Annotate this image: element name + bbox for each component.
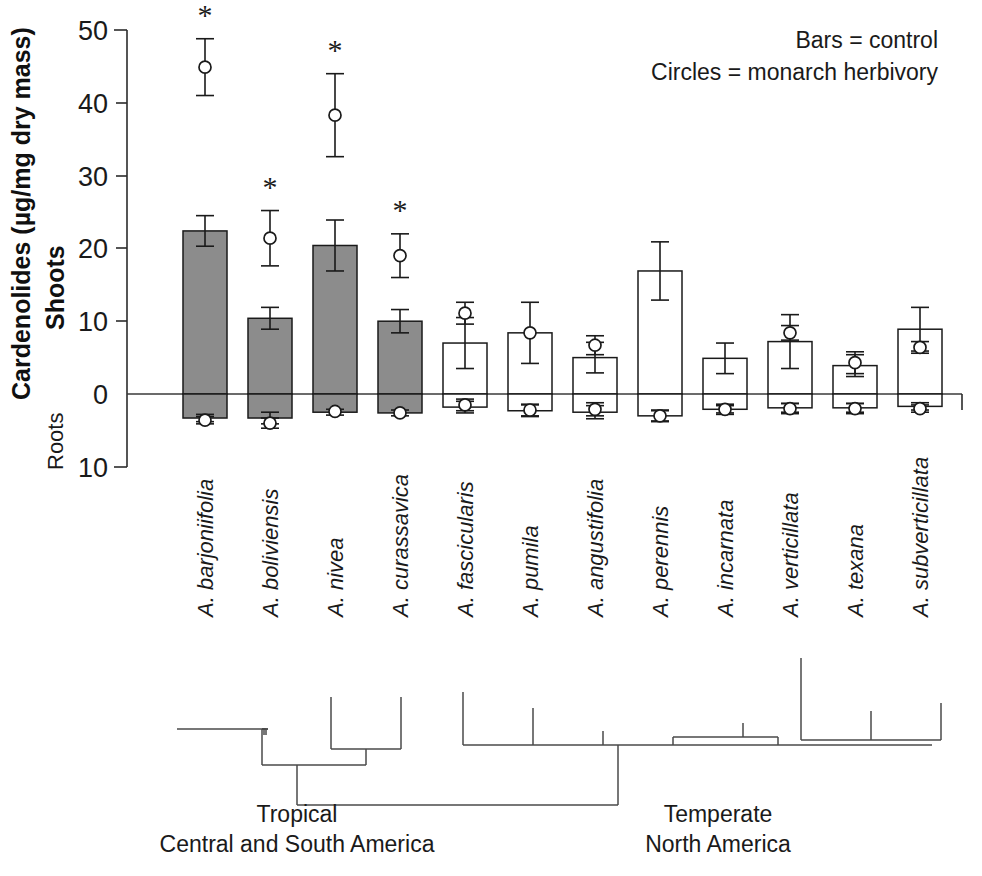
y-tick-label-30: 30 <box>78 162 108 192</box>
significance-star-0: * <box>198 0 213 31</box>
y-tick-label-neg10: 10 <box>78 453 108 483</box>
significance-star-3: * <box>393 193 408 226</box>
bar-shoot-0[interactable] <box>183 231 227 394</box>
phylogeny-tree <box>177 658 941 805</box>
y-tick-label-0: 0 <box>93 380 108 410</box>
chart-svg: 50 40 30 20 10 0 10 Cardenolides (µg/mg … <box>0 0 982 876</box>
group-label-temperate-line2: North America <box>645 831 791 857</box>
monarch-circle-shoot-0[interactable] <box>199 61 211 73</box>
species-label-10: A. texana <box>843 524 868 619</box>
monarch-circle-root-7[interactable] <box>654 410 666 422</box>
species-label-9: A. verticillata <box>778 492 803 619</box>
monarch-circle-root-11[interactable] <box>914 403 926 415</box>
species-label-0: A. barjoniifolia <box>193 479 218 619</box>
monarch-circle-root-10[interactable] <box>849 403 861 415</box>
monarch-circle-root-6[interactable] <box>589 403 601 415</box>
monarch-circle-root-8[interactable] <box>719 403 731 415</box>
monarch-circle-root-3[interactable] <box>394 407 406 419</box>
monarch-circle-root-2[interactable] <box>329 405 341 417</box>
monarch-circle-root-1[interactable] <box>264 417 276 429</box>
y-axis-title: Cardenolides (µg/mg dry mass) <box>7 27 35 400</box>
monarch-circle-shoot-11[interactable] <box>914 341 926 353</box>
y-tick-label-20: 20 <box>78 234 108 264</box>
species-label-layer: A. barjoniifoliaA. boliviensisA. niveaA.… <box>193 457 933 619</box>
group-label-tropical-line2: Central and South America <box>160 831 435 857</box>
monarch-circle-shoot-5[interactable] <box>524 327 536 339</box>
monarch-circle-shoot-2[interactable] <box>329 109 341 121</box>
legend: Bars = control Circles = monarch herbivo… <box>651 27 938 85</box>
group-label-tropical-line1: Tropical <box>257 801 338 827</box>
figure-root: 50 40 30 20 10 0 10 Cardenolides (µg/mg … <box>0 0 982 876</box>
y-tick-label-10: 10 <box>78 307 108 337</box>
monarch-circle-shoot-9[interactable] <box>784 327 796 339</box>
y-tick-label-50: 50 <box>78 16 108 46</box>
species-label-8: A. incarnata <box>713 500 738 619</box>
significance-star-1: * <box>263 170 278 203</box>
significance-star-2: * <box>328 33 343 66</box>
y-axis-shoots-label: Shoots <box>41 245 69 330</box>
monarch-circle-shoot-6[interactable] <box>589 339 601 351</box>
monarch-circle-shoot-10[interactable] <box>849 357 861 369</box>
species-label-3: A. curassavica <box>388 474 413 619</box>
species-label-11: A. subverticillata <box>908 457 933 619</box>
y-axis-roots-label: Roots <box>43 413 68 470</box>
monarch-circle-root-4[interactable] <box>459 399 471 411</box>
monarch-circle-root-0[interactable] <box>199 414 211 426</box>
species-label-5: A. pumila <box>518 525 543 619</box>
species-label-6: A. angustifolia <box>583 479 608 619</box>
monarch-circle-root-5[interactable] <box>524 404 536 416</box>
y-tick-label-40: 40 <box>78 89 108 119</box>
species-label-1: A. boliviensis <box>258 489 283 619</box>
monarch-circle-shoot-4[interactable] <box>459 307 471 319</box>
monarch-circle-root-9[interactable] <box>784 403 796 415</box>
clade-group-labels: Tropical Central and South America Tempe… <box>160 801 792 857</box>
legend-line-circles: Circles = monarch herbivory <box>651 59 938 85</box>
monarch-circle-shoot-3[interactable] <box>394 250 406 262</box>
species-label-7: A. perennis <box>648 506 673 619</box>
group-label-temperate-line1: Temperate <box>664 801 773 827</box>
species-label-4: A. fascicularis <box>453 481 478 619</box>
monarch-circle-shoot-1[interactable] <box>264 232 276 244</box>
y-axis: 50 40 30 20 10 0 10 <box>78 16 127 483</box>
legend-line-bars: Bars = control <box>795 27 938 53</box>
species-label-2: A. nivea <box>323 538 348 620</box>
